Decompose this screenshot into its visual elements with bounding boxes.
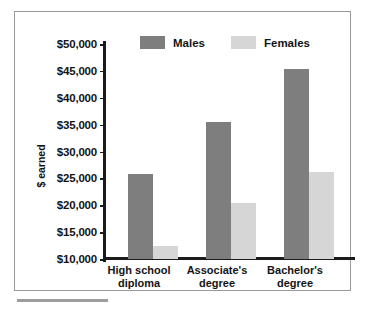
- caption-rule: [17, 299, 108, 302]
- y-axis-tick-label: $35,000: [57, 119, 97, 131]
- bar-males-1: [206, 122, 231, 259]
- y-axis-tick-label: $25,000: [57, 172, 97, 184]
- y-axis-tick-label: $40,000: [57, 92, 97, 104]
- y-axis-tick: [100, 232, 106, 234]
- bar-females-0: [153, 246, 178, 259]
- bar-females-1: [231, 203, 256, 259]
- bar-group: [128, 174, 178, 259]
- chart-frame: Males Females $ earned $50,000$45,000$40…: [14, 11, 351, 291]
- x-axis-label-line: degree: [240, 277, 350, 290]
- y-axis-tick: [100, 259, 106, 261]
- y-axis-tick: [100, 98, 106, 100]
- y-axis-tick-label: $45,000: [57, 65, 97, 77]
- y-axis-tick: [100, 152, 106, 154]
- bar-males-0: [128, 174, 153, 259]
- x-axis-label-line: Bachelor's: [240, 264, 350, 277]
- bar-group: [206, 122, 256, 259]
- bar-females-2: [309, 172, 334, 259]
- y-axis-tick: [100, 125, 106, 127]
- y-axis-tick-label: $30,000: [57, 146, 97, 158]
- y-axis-tick: [100, 44, 106, 46]
- x-axis-label-2: Bachelor'sdegree: [240, 264, 350, 289]
- y-axis-title-text: $ earned: [35, 144, 47, 187]
- bar-chart-figure: Males Females $ earned $50,000$45,000$40…: [0, 0, 365, 309]
- y-axis-title: $ earned: [34, 120, 48, 212]
- plot-area: $50,000$45,000$40,000$35,000$30,000$25,0…: [106, 44, 355, 259]
- y-axis-tick-label: $15,000: [57, 226, 97, 238]
- y-axis-tick: [100, 71, 106, 73]
- bar-group: [284, 69, 334, 259]
- y-axis-tick: [100, 178, 106, 180]
- y-axis-tick-label: $20,000: [57, 199, 97, 211]
- bar-males-2: [284, 69, 309, 259]
- y-axis-tick: [100, 205, 106, 207]
- y-axis-tick-label: $50,000: [57, 38, 97, 50]
